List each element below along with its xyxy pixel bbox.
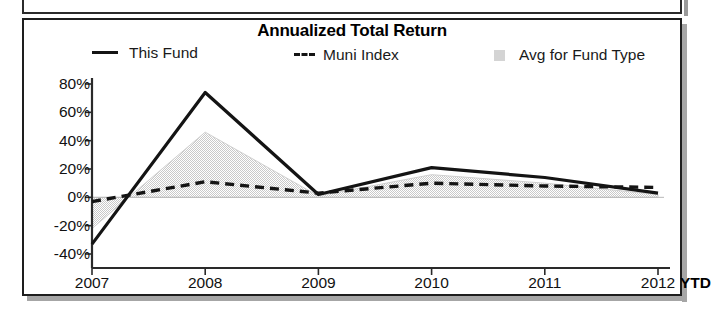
- x-axis-tick-label: 2007: [75, 274, 109, 292]
- chart-canvas: [24, 20, 680, 294]
- y-axis-tick-label: 20%: [59, 160, 90, 178]
- x-axis-tick-label: 2008: [188, 274, 222, 292]
- x-axis-tick-label: 2011: [528, 274, 561, 292]
- y-axis-tick-label: 0%: [68, 188, 90, 206]
- y-axis-tick-label: -20%: [54, 217, 90, 235]
- y-axis-tick-label: 40%: [59, 132, 90, 150]
- top-panel-fragment: [22, 0, 682, 14]
- plot-area: 80%60%40%20%0%-20%-40% 20072008200920102…: [24, 20, 680, 294]
- x-axis-ytd-label: YTD: [680, 274, 711, 292]
- chart-panel-shadow-right: [682, 24, 687, 302]
- x-axis-tick-label: 2010: [414, 274, 448, 292]
- x-axis-tick-labels: 200720082009201020112012YTD: [24, 268, 680, 294]
- chart-panel-shadow-bottom: [27, 296, 687, 301]
- y-axis-tick-label: 60%: [59, 103, 90, 121]
- y-axis-tick-labels: 80%60%40%20%0%-20%-40%: [32, 20, 90, 294]
- top-panel-fragment-shadow: [684, 0, 688, 16]
- y-axis-tick-label: -40%: [54, 245, 90, 263]
- x-axis-tick-label: 2009: [301, 274, 335, 292]
- x-axis-tick-label: 2012: [641, 274, 675, 292]
- y-axis-tick-label: 80%: [59, 75, 90, 93]
- chart-panel: Annualized Total Return This Fund Muni I…: [22, 18, 682, 296]
